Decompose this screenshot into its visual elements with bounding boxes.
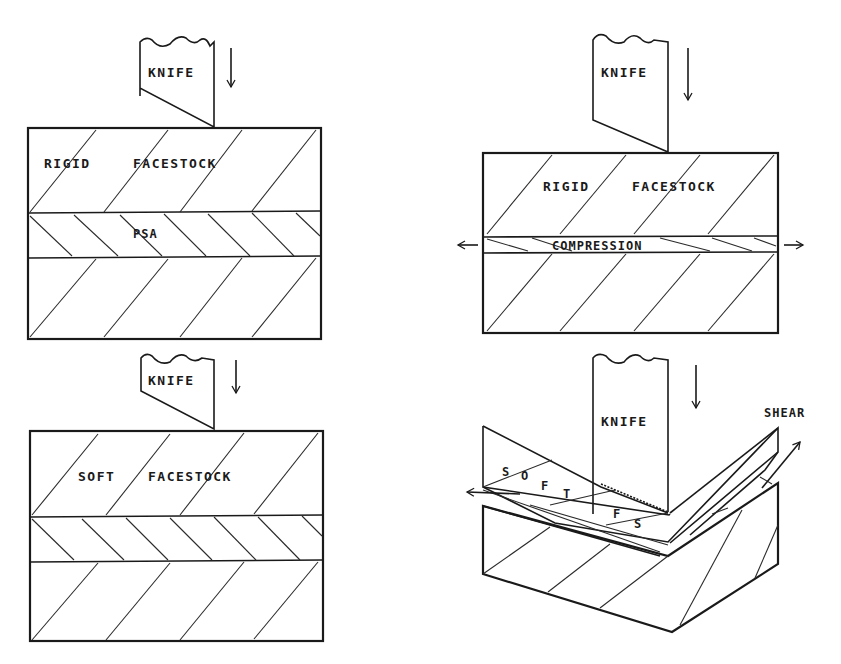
shear-label: SHEAR bbox=[764, 406, 805, 420]
knife: KNIFE bbox=[593, 354, 668, 514]
layer-label-facestock: FACESTOCK bbox=[632, 179, 716, 194]
layer-label-rigid: RIGID bbox=[543, 179, 590, 194]
layer-divider bbox=[28, 256, 321, 258]
layer-label-rigid: RIGID bbox=[44, 156, 91, 171]
left-arrow-icon bbox=[467, 492, 520, 494]
layer-divider bbox=[483, 236, 778, 237]
layer-label-facestock: FACESTOCK bbox=[133, 156, 217, 171]
base-hatch bbox=[487, 254, 774, 331]
panel-bottom-right: KNIFE SHEAR bbox=[467, 354, 805, 632]
facestock-hatch bbox=[487, 155, 774, 234]
base-hatch bbox=[32, 562, 318, 640]
knife-label: KNIFE bbox=[148, 373, 195, 388]
facestock-hatch bbox=[30, 130, 316, 212]
panel-bottom-left: KNIFE SOFT FACESTOCK bbox=[30, 354, 323, 641]
layer-divider bbox=[28, 211, 321, 213]
knife-cutting-diagram: KNIFE RIGID bbox=[0, 0, 841, 664]
adhesive-label-psa: PSA bbox=[133, 227, 158, 241]
base-hatch bbox=[30, 258, 316, 337]
letter-s: S bbox=[634, 517, 642, 531]
letter-f: F bbox=[613, 507, 621, 521]
knife: KNIFE bbox=[593, 35, 668, 152]
panel-top-left: KNIFE RIGID bbox=[28, 37, 321, 339]
substrate bbox=[483, 477, 778, 632]
psa-hatch bbox=[30, 213, 320, 256]
knife-label: KNIFE bbox=[601, 65, 648, 80]
layer-label-soft: SOFT bbox=[78, 469, 115, 484]
panel-top-right: KNIFE RIGID FACESTOCK COMPRESSION bbox=[458, 35, 803, 333]
psa-hatch bbox=[32, 516, 322, 560]
letter-f: F bbox=[541, 479, 549, 493]
compression-label: COMPRESSION bbox=[552, 239, 642, 253]
letter-s: S bbox=[502, 465, 510, 479]
letter-o: O bbox=[521, 469, 529, 483]
letter-t: T bbox=[563, 487, 571, 501]
layer-label-facestock: FACESTOCK bbox=[148, 469, 232, 484]
knife-label: KNIFE bbox=[601, 414, 648, 429]
knife-label: KNIFE bbox=[148, 65, 195, 80]
layer-divider bbox=[30, 515, 323, 517]
knife: KNIFE bbox=[141, 354, 214, 429]
knife: KNIFE bbox=[140, 37, 214, 127]
layer-divider bbox=[30, 560, 323, 562]
